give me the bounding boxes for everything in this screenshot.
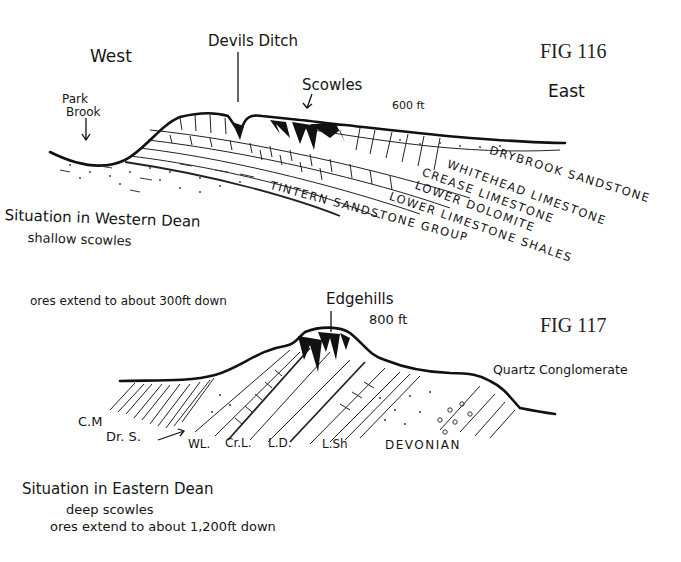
fig117-abbrev-ld: L.D. (268, 436, 292, 450)
fig117-cm-label: C.M (78, 414, 102, 429)
fig117-drs-label: Dr. S. (106, 429, 141, 444)
fig116-figure-number: FIG 116 (540, 40, 606, 63)
fig117-figure-number: FIG 117 (540, 314, 606, 337)
fig116-scowles-label: Scowles (302, 76, 362, 94)
fig117-quartz-conglomerate-label: Quartz Conglomerate (493, 362, 628, 377)
fig116-park-brook-label-1: Park (62, 92, 88, 106)
fig117-caption-line3: ores extend to about 1,200ft down (50, 519, 276, 534)
fig117-abbrev-crl: Cr.L. (225, 436, 252, 450)
fig117-ores-note: ores extend to about 300ft down (30, 294, 227, 308)
fig116-east-label: East (548, 81, 585, 101)
fig117-abbrev-devonian: DEVONIAN (385, 438, 461, 452)
fig117-edgehills-label: Edgehills (326, 290, 394, 308)
fig116-west-label: West (90, 46, 132, 66)
fig116-ground-profile (50, 113, 565, 165)
fig117-caption-line2: deep scowles (66, 502, 154, 517)
fig116-devils-ditch-label: Devils Ditch (208, 32, 298, 50)
fig116-park-brook-label-2: Brook (66, 105, 101, 119)
fig117-abbrev-lsh: L.Sh (322, 437, 348, 451)
fig117-abbrev-wl: WL. (188, 437, 210, 451)
fig117-elevation-label: 800 ft (369, 312, 407, 327)
fig116-elevation-label: 600 ft (392, 99, 424, 112)
fig117-caption-line1: Situation in Eastern Dean (22, 480, 213, 498)
